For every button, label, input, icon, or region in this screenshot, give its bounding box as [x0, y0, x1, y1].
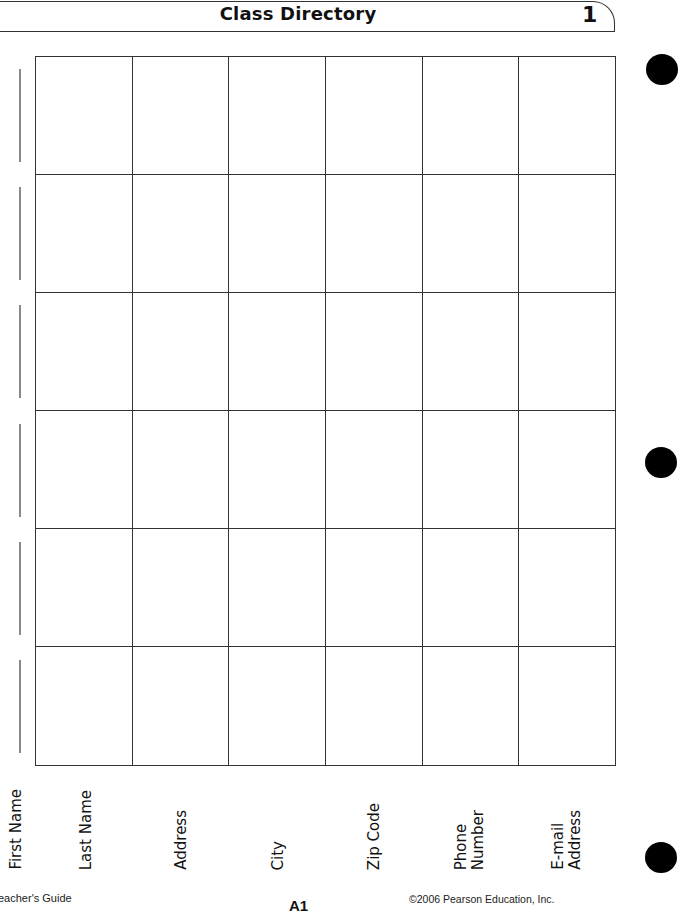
table-cell[interactable] [519, 529, 615, 647]
table-cell[interactable] [133, 57, 229, 175]
column-header-zip-code: Zip Code [366, 803, 383, 870]
table-cell[interactable] [229, 293, 326, 411]
binder-hole-top [646, 54, 678, 85]
first-name-line-6[interactable] [19, 660, 21, 753]
page-number-badge: 1 [582, 2, 597, 27]
binder-hole-bottom [645, 842, 677, 873]
table-cell[interactable] [519, 647, 615, 765]
table-cell[interactable] [36, 411, 133, 529]
column-header-phone-number: Phone Number [453, 810, 487, 870]
table-cell[interactable] [423, 529, 519, 647]
footer-guide-label: eacher's Guide [0, 892, 72, 904]
table-cell[interactable] [519, 293, 615, 411]
table-cell[interactable] [133, 175, 229, 293]
table-cell[interactable] [326, 175, 423, 293]
table-cell[interactable] [326, 529, 423, 647]
table-cell[interactable] [519, 175, 615, 293]
first-name-line-4[interactable] [19, 424, 21, 517]
column-header-email-address: E-mail Address [550, 810, 584, 870]
column-header-first-name: First Name [8, 789, 25, 870]
table-cell[interactable] [326, 411, 423, 529]
table-cell[interactable] [519, 411, 615, 529]
table-cell[interactable] [36, 293, 133, 411]
table-cell[interactable] [519, 57, 615, 175]
table-cell[interactable] [423, 293, 519, 411]
table-cell[interactable] [229, 411, 326, 529]
first-name-line-3[interactable] [19, 305, 21, 398]
table-cell[interactable] [229, 175, 326, 293]
first-name-line-5[interactable] [19, 542, 21, 635]
column-header-last-name: Last Name [78, 790, 95, 870]
first-name-line-2[interactable] [19, 187, 21, 280]
column-header-city: City [270, 841, 287, 870]
directory-table [35, 56, 616, 766]
footer-page-code: A1 [289, 897, 308, 914]
table-cell[interactable] [133, 529, 229, 647]
table-cell[interactable] [229, 57, 326, 175]
table-cell[interactable] [36, 57, 133, 175]
page-title: Class Directory [0, 3, 596, 24]
table-cell[interactable] [423, 57, 519, 175]
table-cell[interactable] [36, 647, 133, 765]
table-cell[interactable] [326, 293, 423, 411]
table-cell[interactable] [326, 647, 423, 765]
table-cell[interactable] [36, 529, 133, 647]
table-cell[interactable] [133, 647, 229, 765]
table-cell[interactable] [36, 175, 133, 293]
table-cell[interactable] [229, 529, 326, 647]
binder-hole-middle [645, 447, 677, 478]
table-cell[interactable] [423, 175, 519, 293]
first-name-line-1[interactable] [19, 69, 21, 162]
table-cell[interactable] [326, 57, 423, 175]
table-cell[interactable] [423, 647, 519, 765]
table-cell[interactable] [229, 647, 326, 765]
table-cell[interactable] [133, 293, 229, 411]
footer-copyright: ©2006 Pearson Education, Inc. [409, 893, 555, 905]
table-cell[interactable] [133, 411, 229, 529]
table-cell[interactable] [423, 411, 519, 529]
column-header-address: Address [173, 810, 190, 870]
